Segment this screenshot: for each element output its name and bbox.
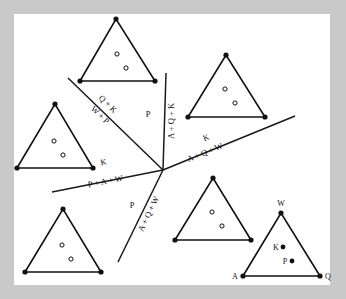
triangle-labeled-interior-point-k — [281, 245, 286, 250]
triangle-bottom-middle-hole-1 — [210, 210, 214, 214]
vertex-label-w: W — [277, 199, 285, 208]
triangle-bottom-left — [22, 206, 103, 274]
label-right-below: A + Q + W — [185, 141, 224, 164]
triangle-left-hole-1 — [52, 139, 56, 143]
triangle-upper-right-hole-1 — [223, 87, 227, 91]
triangle-labeled-interior-point-p — [290, 259, 295, 264]
triangle-left-vertex-left — [14, 165, 19, 170]
triangle-top-vertex-right — [152, 78, 157, 83]
label-left-below: P + A + W — [87, 173, 124, 190]
triangle-top — [77, 16, 157, 83]
triangle-top-hole-1 — [115, 52, 119, 56]
triangle-bottom-middle-hole-2 — [220, 224, 224, 228]
vertex-label-q: Q — [325, 272, 331, 281]
triangle-labeled-vertex-q — [317, 273, 322, 278]
triangle-left-hole-2 — [61, 153, 65, 157]
interior-label-k: K — [273, 243, 279, 252]
triangle-top-edges — [80, 19, 155, 81]
triangle-upper-right-vertex-left — [185, 114, 190, 119]
triangle-labeled-edges — [243, 213, 320, 276]
triangle-bottom-left-vertex-left — [22, 269, 27, 274]
triangle-top-hole-2 — [124, 66, 128, 70]
triangle-upper-right-vertex-apex — [223, 52, 228, 57]
interior-label-p: P — [283, 257, 288, 266]
triangle-top-vertex-apex — [113, 16, 118, 21]
figure-root: Q + K W + P P A + Q + K K A + Q + W K P … — [0, 0, 346, 299]
triangle-top-vertex-left — [77, 78, 82, 83]
triangle-left-vertex-apex — [52, 101, 57, 106]
label-vertical-right: A + Q + K — [166, 102, 176, 139]
triangle-upper-right-hole-2 — [233, 101, 237, 105]
triangle-labeled-vertex-w — [278, 210, 283, 215]
label-vertical-left: P — [146, 109, 151, 119]
label-lower-left-inner: A + Q + W — [136, 195, 162, 233]
triangle-bottom-middle — [172, 175, 253, 242]
partition-line-lower-left-diagonal — [118, 170, 163, 262]
triangle-left-vertex-right — [90, 165, 95, 170]
triangle-upper-right-vertex-right — [262, 114, 267, 119]
label-left-above: K — [99, 156, 108, 167]
triangle-left — [14, 101, 95, 170]
triangle-partition-diagram: Q + K W + P P A + Q + K K A + Q + W K P … — [0, 0, 346, 299]
triangle-bottom-left-vertex-apex — [60, 206, 65, 211]
label-right-above: K — [201, 131, 211, 143]
triangle-bottom-left-vertex-right — [98, 269, 103, 274]
triangle-bottom-middle-vertex-right — [248, 237, 253, 242]
partition-line-upper-left-diagonal — [68, 78, 163, 170]
vertex-label-a: A — [232, 272, 238, 281]
triangle-bottom-middle-vertex-apex — [210, 175, 215, 180]
triangle-bottom-left-hole-2 — [69, 257, 73, 261]
triangle-upper-right — [185, 52, 267, 119]
triangle-bottom-middle-edges — [175, 178, 251, 240]
partition-line-right-diagonal — [163, 116, 295, 170]
triangle-labeled-vertex-a — [240, 273, 245, 278]
label-lower-left-outer: P — [130, 200, 135, 210]
triangle-bottom-left-edges — [25, 209, 101, 272]
triangle-bottom-left-hole-1 — [60, 243, 64, 247]
triangle-bottom-middle-vertex-left — [172, 237, 177, 242]
triangle-upper-right-edges — [188, 55, 265, 117]
triangle-left-edges — [17, 104, 93, 168]
